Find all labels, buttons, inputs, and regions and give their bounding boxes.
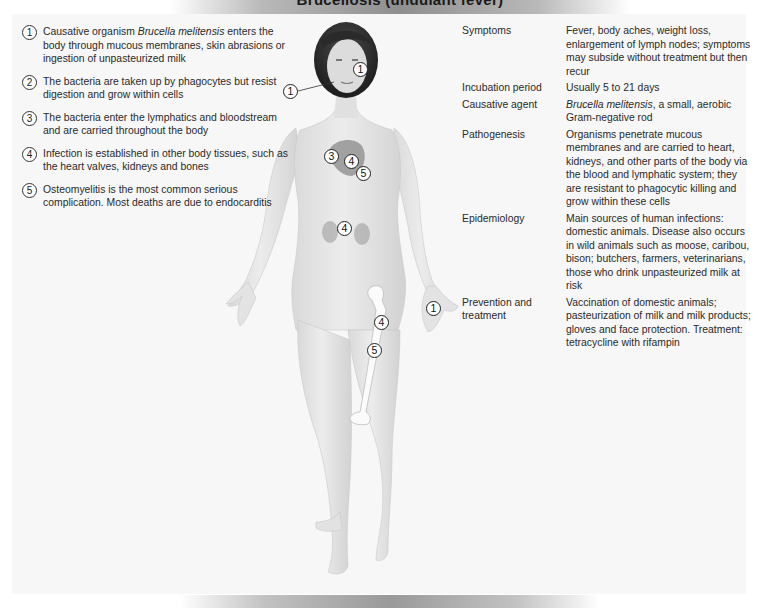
bottom-strip (180, 595, 600, 608)
step-text: The bacteria are taken up by phagocytes … (43, 75, 292, 102)
marker-heart-3: 3 (324, 149, 339, 164)
row-value: Organisms penetrate mucous membranes and… (566, 128, 752, 209)
step-text: Infection is established in other body t… (43, 147, 292, 174)
disease-info-table: Symptoms Fever, body aches, weight loss,… (462, 24, 752, 350)
row-label: Prevention and treatment (462, 296, 566, 350)
step-4: 4 Infection is established in other body… (22, 147, 292, 174)
steps-list: 1 Causative organism Brucella melitensis… (22, 25, 292, 219)
row-value: Usually 5 to 21 days (566, 81, 752, 95)
marker-femur-5: 5 (367, 343, 382, 358)
step-text: Osteomyelitis is the most common serious… (43, 183, 292, 210)
step-5: 5 Osteomyelitis is the most common serio… (22, 183, 292, 210)
row-label: Epidemiology (462, 212, 566, 293)
marker-femur-4: 4 (374, 315, 389, 330)
row-pathogenesis: Pathogenesis Organisms penetrate mucous … (462, 128, 752, 209)
row-label: Incubation period (462, 81, 566, 95)
step-text: Causative organism Brucella melitensis e… (43, 25, 292, 66)
row-value: Brucella melitensis, a small, aerobic Gr… (566, 98, 752, 125)
row-value: Fever, body aches, weight loss, enlargem… (566, 24, 752, 78)
step-3: 3 The bacteria enter the lymphatics and … (22, 111, 292, 138)
row-prevention: Prevention and treatment Vaccination of … (462, 296, 752, 350)
marker-heart-4: 4 (344, 154, 359, 169)
step-text: The bacteria enter the lymphatics and bl… (43, 111, 292, 138)
row-label: Pathogenesis (462, 128, 566, 209)
step-number: 5 (22, 183, 37, 198)
step-1: 1 Causative organism Brucella melitensis… (22, 25, 292, 66)
row-label: Symptoms (462, 24, 566, 78)
step-number: 2 (22, 75, 37, 90)
row-agent: Causative agent Brucella melitensis, a s… (462, 98, 752, 125)
title-strip: Brucellosis (undulant fever) (170, 0, 630, 14)
step-number: 1 (22, 25, 37, 40)
step-2: 2 The bacteria are taken up by phagocyte… (22, 75, 292, 102)
marker-kidney-4: 4 (337, 221, 352, 236)
row-symptoms: Symptoms Fever, body aches, weight loss,… (462, 24, 752, 78)
row-value: Vaccination of domestic animals; pasteur… (566, 296, 752, 350)
row-incubation: Incubation period Usually 5 to 21 days (462, 81, 752, 95)
step-number: 3 (22, 111, 37, 126)
marker-face-right: 1 (353, 62, 368, 77)
title-text: Brucellosis (undulant fever) (170, 0, 630, 8)
step-number: 4 (22, 147, 37, 162)
row-value: Main sources of human infections: domest… (566, 212, 752, 293)
row-epidemiology: Epidemiology Main sources of human infec… (462, 212, 752, 293)
marker-hand-1: 1 (426, 301, 441, 316)
row-label: Causative agent (462, 98, 566, 125)
marker-heart-5: 5 (356, 166, 371, 181)
